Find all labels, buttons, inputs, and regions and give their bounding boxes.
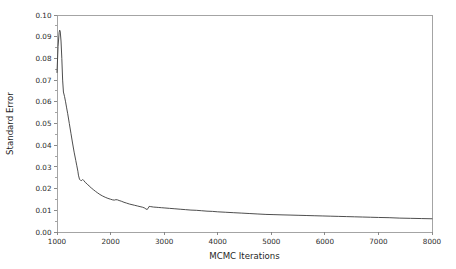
y-tick-label: 0.10	[35, 11, 51, 20]
y-tick-label: 0.08	[35, 54, 51, 63]
x-tick-label: 6000	[316, 237, 335, 246]
y-tick-label: 0.04	[35, 141, 51, 150]
y-tick-label: 0.09	[35, 32, 51, 41]
x-tick-label: 4000	[209, 237, 228, 246]
x-tick-label: 2000	[101, 237, 120, 246]
y-axis-title: Standard Error	[5, 92, 15, 155]
x-tick-label: 1000	[48, 237, 67, 246]
y-tick-label: 0.03	[35, 163, 51, 172]
y-tick-label: 0.01	[35, 206, 51, 215]
x-tick-label: 7000	[369, 237, 388, 246]
x-tick-label: 3000	[155, 237, 174, 246]
y-tick-label: 0.02	[35, 184, 51, 193]
y-tick-label: 0.00	[35, 228, 51, 237]
y-tick-label: 0.07	[35, 76, 51, 85]
x-tick-label: 8000	[423, 237, 442, 246]
x-tick-label: 5000	[262, 237, 281, 246]
chart-background	[0, 0, 456, 269]
y-tick-label: 0.06	[35, 97, 51, 106]
standard-error-line-chart: 0.000.010.020.030.040.050.060.070.080.09…	[0, 0, 456, 269]
chart-figure: 0.000.010.020.030.040.050.060.070.080.09…	[0, 0, 456, 269]
y-tick-label: 0.05	[35, 119, 51, 128]
x-axis-title: MCMC Iterations	[209, 251, 280, 261]
